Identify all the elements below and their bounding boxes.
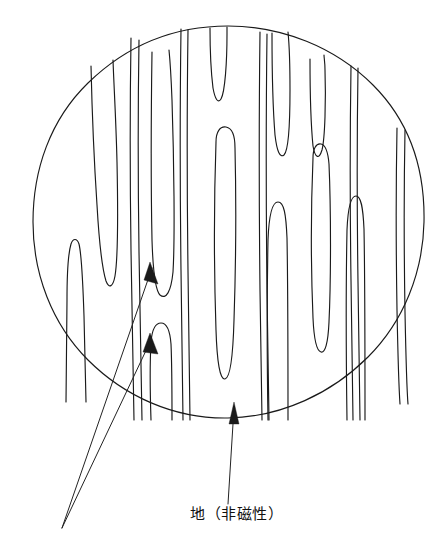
line-drawing-svg — [0, 0, 439, 537]
stripe-6b — [187, 30, 190, 420]
stripe-5 — [150, 323, 172, 420]
stripe-8 — [215, 127, 236, 379]
stripe-1 — [66, 240, 86, 403]
stripe-9 — [259, 32, 262, 420]
arrowhead-upper — [144, 262, 158, 284]
stripe-4 — [151, 50, 174, 296]
stripe-14 — [350, 66, 353, 420]
figure-canvas: 地（非磁性） — [0, 0, 439, 537]
arrowhead-base-label — [229, 402, 239, 424]
leader-line-upper — [62, 268, 152, 528]
stripe-11 — [267, 202, 288, 420]
stripe-2 — [91, 60, 118, 286]
stripe-12 — [310, 55, 325, 156]
stripe-3 — [130, 38, 134, 420]
stripe-7 — [210, 27, 227, 101]
stripe-6 — [180, 29, 183, 420]
stripe-10 — [272, 32, 290, 156]
stripe-13 — [312, 144, 331, 352]
stripe-16 — [396, 128, 400, 404]
stripe-15 — [346, 196, 365, 420]
stripe-domain-group — [66, 27, 408, 420]
leader-line-lower — [62, 340, 151, 528]
arrowhead-lower — [143, 333, 158, 354]
base-label-caption: 地（非磁性） — [190, 506, 283, 523]
stripe-16b — [404, 130, 408, 404]
